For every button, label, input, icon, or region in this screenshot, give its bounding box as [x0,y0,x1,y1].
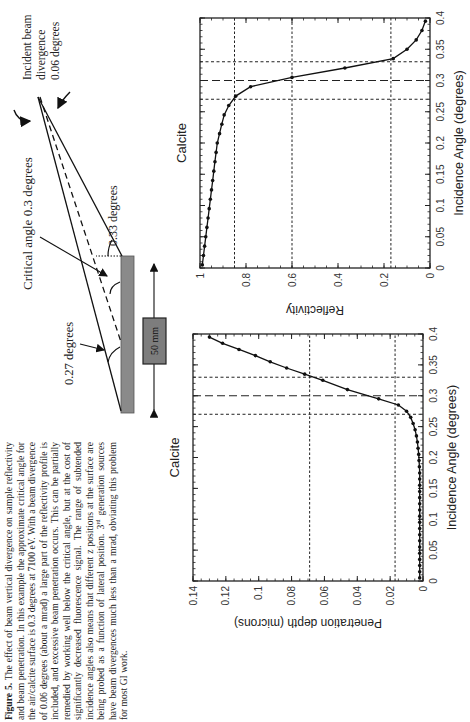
data-point [237,348,241,352]
data-point [411,422,415,426]
chart-title: Calcite [174,123,189,163]
data-point [321,379,325,383]
data-point [417,459,421,463]
data-point [418,533,422,537]
x-tick-label: 0.35 [435,39,446,59]
data-point [416,440,420,444]
data-point [285,366,289,370]
y-tick-label: 0.1 [253,586,264,600]
y-tick-label: 0 [418,586,429,592]
data-point [418,521,422,525]
data-point [205,226,209,230]
angle-arc-030 [110,282,120,294]
x-tick-label: 0.1 [428,512,439,526]
data-point [303,372,307,376]
x-tick-label: 0.3 [428,388,439,402]
data-point [405,47,409,51]
data-point [418,490,422,494]
data-point [418,483,422,487]
data-point [413,428,417,432]
x-tick-label: 0.1 [435,198,446,212]
y-tick-label: 0.08 [286,586,297,606]
data-point [417,453,421,457]
beam-diagram: 50 mm Incident beam divergence 0.06 degr… [14,14,166,413]
x-tick-label: 0.15 [428,478,439,498]
y-axis-label: Reflectivity [286,303,344,317]
data-point [207,207,211,211]
data-point [209,197,213,201]
x-tick-label: 0.4 [435,11,446,25]
x-tick-label: 0.2 [435,136,446,150]
x-tick-label: 0.35 [428,355,439,375]
data-point [405,409,409,413]
data-point [418,471,422,475]
y-tick-label: 0.06 [319,586,330,606]
data-point [210,188,214,192]
data-point [214,151,218,155]
y-tick-label: 0.14 [188,586,199,606]
x-tick-label: 0.05 [428,540,439,560]
data-point [211,179,215,183]
data-point [221,341,225,345]
divergence-arrow-left [14,110,30,121]
penetration-depth-chart: 00.050.10.150.20.250.30.350.400.020.040.… [167,327,459,630]
data-point [346,388,350,392]
data-point [418,502,422,506]
data-point [415,434,419,438]
x-tick-label: 0.3 [435,73,446,87]
data-curve [209,337,419,578]
data-point [414,38,418,42]
critical-angle-label: Critical angle 0.3 degrees [20,157,35,290]
x-tick-label: 0 [435,265,446,271]
data-point [227,104,231,108]
data-point [202,254,206,258]
data-point [268,360,272,364]
data-point [249,85,253,89]
x-tick-label: 0.25 [428,416,439,436]
divergence-arrow-right [58,92,70,108]
chart-title: Calcite [167,438,182,478]
calcite-substrate [121,256,134,413]
data-point [212,169,216,173]
y-tick-label: 0.12 [220,586,231,606]
data-point [391,57,395,61]
x-tick-label: 0.25 [435,102,446,122]
x-tick-label: 0.2 [428,450,439,464]
data-point [416,446,420,450]
angle-arc-027 [108,347,120,362]
data-point [418,508,422,512]
data-point [418,496,422,500]
data-point [418,558,422,562]
data-point [377,397,381,401]
incident-divergence-label-2: divergence [35,30,48,80]
data-point [418,564,422,568]
x-tick-label: 0.4 [428,327,439,341]
data-point [409,416,413,420]
data-point [218,132,222,136]
data-point [254,354,258,358]
data-point [418,527,422,531]
reflectivity-chart: 00.050.10.150.20.250.30.350.400.20.40.60… [174,11,466,317]
y-tick-label: 1 [195,273,206,279]
x-axis-label: Incidence Angle (degrees) [452,70,466,215]
data-point [343,66,347,70]
incident-divergence-label-3: 0.06 degrees [49,21,62,80]
data-point [204,235,208,239]
x-tick-label: 0 [428,578,439,584]
rotated-page: Figure 5. The effect of beam vertical di… [0,0,470,722]
size-label: 50 mm [149,327,160,355]
data-point [201,263,205,267]
data-point [418,514,422,518]
x-tick-label: 0.15 [435,164,446,184]
data-point [418,477,422,481]
data-point [208,335,212,339]
incident-divergence-label-1: Incident beam [21,14,33,80]
data-point [418,576,422,580]
data-point [418,570,422,574]
y-tick-label: 0.8 [241,273,252,287]
y-tick-label: 0.2 [379,273,390,287]
y-tick-label: 0.04 [352,586,363,606]
data-point [215,141,219,145]
data-point [424,19,428,23]
data-point [206,216,210,220]
